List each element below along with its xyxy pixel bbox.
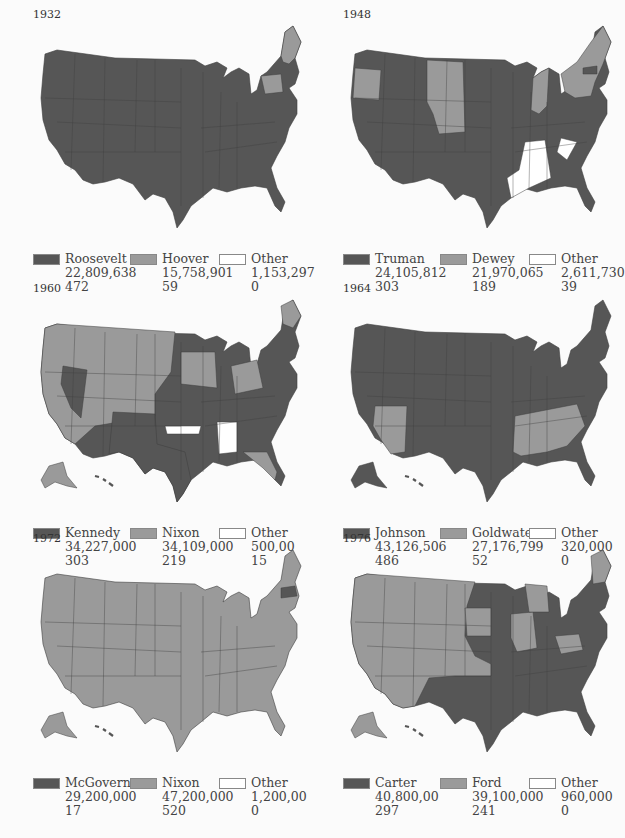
legend-name: McGovern	[65, 776, 137, 790]
legend-swatch	[219, 778, 246, 789]
year-label: 1976	[343, 532, 371, 545]
map-panel-1932: 1932Roosevelt22,809,638472Hoover15,758,9…	[0, 0, 300, 270]
legend-swatch	[130, 778, 157, 789]
legend-swatch	[130, 254, 157, 265]
legend-electoral: 241	[472, 804, 544, 818]
us-state-map	[30, 296, 310, 506]
legend: Carter40,800,00297Ford39,100,000241Other…	[343, 776, 625, 818]
legend-swatch	[343, 778, 370, 789]
hawaii-inset	[95, 726, 113, 736]
us-state-map	[30, 546, 310, 756]
legend-votes: 29,200,000	[65, 790, 137, 804]
legend-electoral: 297	[375, 804, 439, 818]
us-state-map	[340, 546, 620, 756]
legend-name: Other	[251, 252, 315, 266]
map-panel-1948: 1948Truman24,105,812303Dewey21,970,06518…	[310, 0, 610, 270]
map-panel-1960: 1960Kennedy34,227,000303Nixon34,109,0002…	[0, 274, 300, 544]
year-label: 1972	[33, 532, 61, 545]
hawaii-inset	[405, 726, 423, 736]
alaska-inset	[351, 712, 387, 738]
us-state-map	[340, 296, 620, 506]
legend-swatch	[343, 254, 370, 265]
legend-name: Other	[561, 252, 625, 266]
legend-name: Truman	[375, 252, 447, 266]
legend-swatch	[529, 254, 556, 265]
legend-name: Roosevelt	[65, 252, 137, 266]
hawaii-inset	[95, 476, 113, 486]
hawaii-inset	[405, 476, 423, 486]
legend-name: Other	[561, 776, 613, 790]
legend: McGovern29,200,00017Nixon47,200,000520Ot…	[33, 776, 323, 818]
legend-votes: 47,200,000	[162, 790, 234, 804]
alaska-inset	[41, 462, 77, 488]
alaska-inset	[351, 462, 387, 488]
legend-electoral: 17	[65, 804, 137, 818]
legend-swatch	[529, 778, 556, 789]
legend-votes: 1,200,00	[251, 790, 307, 804]
year-label: 1932	[33, 8, 61, 21]
us-state-map	[30, 22, 310, 232]
map-panel-1964: 1964Johnson43,126,506486Goldwater27,176,…	[310, 274, 610, 544]
alaska-inset	[41, 712, 77, 738]
legend-votes: 39,100,000	[472, 790, 544, 804]
us-state-map	[340, 22, 620, 232]
legend-swatch	[440, 254, 467, 265]
legend-swatch	[33, 778, 60, 789]
legend-electoral: 0	[561, 804, 613, 818]
year-label: 1964	[343, 282, 371, 295]
map-panel-1972: 1972McGovern29,200,00017Nixon47,200,0005…	[0, 524, 300, 794]
year-label: 1960	[33, 282, 61, 295]
legend-votes: 40,800,00	[375, 790, 439, 804]
legend-votes: 960,000	[561, 790, 613, 804]
legend-swatch	[440, 778, 467, 789]
legend-name: Carter	[375, 776, 439, 790]
legend-name: Other	[251, 776, 307, 790]
legend-electoral: 520	[162, 804, 234, 818]
legend-swatch	[219, 254, 246, 265]
map-panel-1976: 1976Carter40,800,00297Ford39,100,000241O…	[310, 524, 610, 794]
legend-electoral: 0	[251, 804, 307, 818]
legend-swatch	[33, 254, 60, 265]
year-label: 1948	[343, 8, 371, 21]
